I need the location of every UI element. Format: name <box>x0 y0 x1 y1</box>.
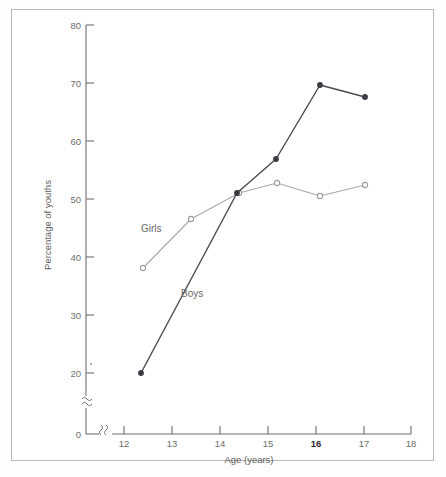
y-tick-label-60: 60 <box>70 136 81 147</box>
boys-series-line <box>141 85 365 373</box>
x-axis-break-icon <box>99 425 107 435</box>
y-tick-label-40: 40 <box>70 252 81 263</box>
y-tick-label-80: 80 <box>70 20 81 31</box>
y-tick-label-70: 70 <box>70 78 81 89</box>
x-tick-label-15: 15 <box>263 438 274 449</box>
girls-series-line <box>143 183 365 268</box>
x-tick-label-14: 14 <box>215 438 226 449</box>
x-tick-label-16: 16 <box>311 438 322 449</box>
stray-speck <box>90 363 92 365</box>
y-tick-label-50: 50 <box>70 194 81 205</box>
line-chart-canvas: 80 70 60 50 40 30 20 0 12 13 14 15 16 17… <box>0 0 446 477</box>
y-axis-ticks <box>86 25 94 373</box>
x-axis-title: Age (years) <box>224 454 273 465</box>
x-tick-label-12: 12 <box>119 438 130 449</box>
series-label-boys: Boys <box>181 288 203 299</box>
y-axis-break-icon <box>82 397 92 405</box>
y-tick-label-30: 30 <box>70 310 81 321</box>
x-axis-ticks <box>124 426 411 434</box>
x-tick-label-18: 18 <box>406 438 417 449</box>
series-label-girls: Girls <box>141 223 162 234</box>
boys-data-points <box>139 83 368 376</box>
y-tick-label-0: 0 <box>76 429 81 440</box>
x-tick-label-13: 13 <box>167 438 178 449</box>
y-axis-title: Percentage of youths <box>42 180 53 270</box>
chart-figure: 80 70 60 50 40 30 20 0 12 13 14 15 16 17… <box>0 0 446 477</box>
x-tick-label-17: 17 <box>359 438 370 449</box>
girls-data-points <box>140 180 367 270</box>
y-tick-label-20: 20 <box>70 368 81 379</box>
